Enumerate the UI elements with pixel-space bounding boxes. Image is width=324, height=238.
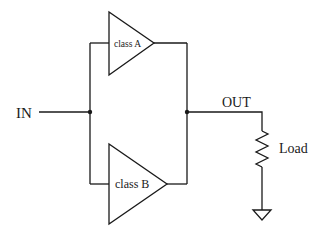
- amp-a-label: class A: [114, 39, 141, 49]
- load-label: Load: [279, 141, 308, 156]
- output-label: OUT: [222, 95, 251, 110]
- input-junction-dot: [88, 110, 92, 114]
- load-resistor-icon: [256, 131, 268, 167]
- output-wire: [187, 112, 262, 131]
- input-label: IN: [16, 105, 32, 121]
- ground-icon: [253, 210, 271, 220]
- amp-b-label: class B: [115, 177, 149, 191]
- amplifier-schematic: class A class B IN OUT Load: [0, 0, 324, 238]
